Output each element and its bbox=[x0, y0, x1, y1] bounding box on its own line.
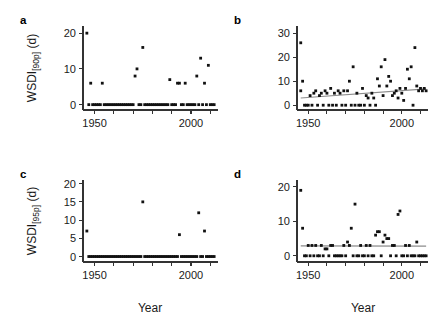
data-point bbox=[372, 97, 375, 100]
data-point bbox=[299, 41, 302, 44]
data-point bbox=[380, 65, 383, 68]
data-point bbox=[197, 103, 200, 106]
data-point bbox=[380, 254, 383, 257]
data-points-b bbox=[299, 41, 427, 106]
data-point bbox=[357, 254, 360, 257]
data-point bbox=[350, 104, 353, 107]
data-point bbox=[201, 255, 204, 258]
x-tick-label-a-5: 2000 bbox=[179, 117, 203, 129]
data-point bbox=[359, 244, 362, 247]
data-point bbox=[85, 230, 88, 233]
data-point bbox=[359, 104, 362, 107]
data-point bbox=[393, 244, 396, 247]
data-point bbox=[331, 244, 334, 247]
data-point bbox=[387, 237, 390, 240]
data-point bbox=[384, 58, 387, 61]
data-point bbox=[354, 203, 357, 206]
data-point bbox=[385, 85, 388, 88]
data-point bbox=[318, 94, 321, 97]
data-point bbox=[139, 103, 142, 106]
data-point bbox=[326, 248, 329, 251]
y-tick-label-a-0: 0 bbox=[70, 99, 76, 111]
panel-letter-b: b bbox=[234, 14, 241, 26]
data-point bbox=[168, 78, 171, 81]
data-point bbox=[178, 233, 181, 236]
data-point bbox=[419, 87, 422, 90]
data-point bbox=[414, 254, 417, 257]
x-tick-label-b-0: 1950 bbox=[296, 117, 320, 129]
data-point bbox=[412, 104, 415, 107]
x-axis-title-d: Year bbox=[351, 301, 375, 315]
data-point bbox=[327, 254, 330, 257]
data-point bbox=[387, 75, 390, 78]
data-points-a bbox=[85, 32, 215, 106]
data-point bbox=[314, 244, 317, 247]
data-point bbox=[178, 82, 181, 85]
data-point bbox=[374, 104, 377, 107]
data-point bbox=[322, 254, 325, 257]
data-point bbox=[389, 254, 392, 257]
data-point bbox=[400, 92, 403, 95]
data-point bbox=[414, 46, 417, 49]
data-point bbox=[195, 255, 198, 258]
data-point bbox=[314, 89, 317, 92]
data-point bbox=[213, 255, 216, 258]
data-point bbox=[307, 104, 310, 107]
data-point bbox=[327, 104, 330, 107]
panel-c: c0510152019502000WSDI[95p] (d)Year bbox=[20, 168, 218, 315]
data-point bbox=[402, 99, 405, 102]
data-point bbox=[207, 64, 210, 67]
data-point bbox=[213, 103, 216, 106]
data-point bbox=[421, 89, 424, 92]
data-point bbox=[318, 254, 321, 257]
x-tick-label-c-0: 1950 bbox=[82, 269, 106, 281]
data-point bbox=[410, 65, 413, 68]
y-tick-label-a-2: 20 bbox=[64, 27, 76, 39]
data-point bbox=[354, 104, 357, 107]
data-point bbox=[361, 87, 364, 90]
data-point bbox=[397, 97, 400, 100]
y-axis-title-c: WSDI[95p] (d) bbox=[25, 187, 41, 255]
x-tick-label-d-0: 1950 bbox=[296, 269, 320, 281]
data-point bbox=[312, 92, 315, 95]
data-point bbox=[316, 104, 319, 107]
data-point bbox=[369, 104, 372, 107]
data-point bbox=[85, 32, 88, 35]
data-point bbox=[382, 94, 385, 97]
data-points-c bbox=[85, 200, 215, 257]
y-tick-label-c-1: 5 bbox=[70, 232, 76, 244]
data-point bbox=[320, 92, 323, 95]
y-tick-label-d-1: 10 bbox=[278, 215, 290, 227]
data-point bbox=[367, 97, 370, 100]
data-point bbox=[342, 89, 345, 92]
data-point bbox=[203, 230, 206, 233]
panel-a: a0102019502000WSDI[90p] (d) bbox=[20, 14, 218, 129]
data-point bbox=[363, 254, 366, 257]
data-point bbox=[425, 89, 428, 92]
data-point bbox=[299, 89, 302, 92]
data-point bbox=[384, 234, 387, 237]
data-point bbox=[326, 92, 329, 95]
data-point bbox=[404, 87, 407, 90]
x-tick-label-c-5: 2000 bbox=[179, 269, 203, 281]
data-point bbox=[415, 85, 418, 88]
data-point bbox=[199, 57, 202, 60]
x-tick-label-a-0: 1950 bbox=[82, 117, 106, 129]
data-point bbox=[324, 89, 327, 92]
data-point bbox=[329, 87, 332, 90]
y-tick-label-b-0: 0 bbox=[284, 99, 290, 111]
data-point bbox=[348, 80, 351, 83]
y-tick-label-c-0: 0 bbox=[70, 251, 76, 263]
data-point bbox=[333, 92, 336, 95]
x-tick-label-b-5: 2000 bbox=[390, 117, 414, 129]
data-point bbox=[415, 241, 418, 244]
data-point bbox=[320, 244, 323, 247]
data-point bbox=[176, 255, 179, 258]
data-point bbox=[348, 244, 351, 247]
data-point bbox=[395, 89, 398, 92]
four-panel-scatter-figure: a0102019502000WSDI[90p] (d)b010203019502… bbox=[0, 0, 435, 322]
data-point bbox=[378, 230, 381, 233]
data-point bbox=[423, 87, 426, 90]
panel-b: b010203019502000 bbox=[234, 14, 428, 129]
data-point bbox=[363, 104, 366, 107]
